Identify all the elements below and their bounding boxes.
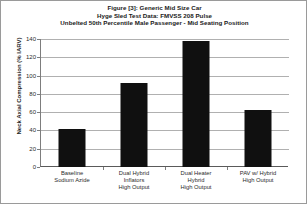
y-tick-label: 120 bbox=[10, 54, 36, 60]
y-tick-label: 0 bbox=[10, 164, 36, 170]
x-axis-category-line: High Output bbox=[165, 184, 227, 191]
y-tick-label: 60 bbox=[10, 109, 36, 115]
y-tick-label: 40 bbox=[10, 127, 36, 133]
x-axis-category-label: Dual HeaterHybridHigh Output bbox=[165, 170, 227, 192]
y-tick-label: 100 bbox=[10, 73, 36, 79]
x-axis-category-label: PAV w/ HybridHigh Output bbox=[227, 170, 289, 184]
x-axis-category-line: High Output bbox=[103, 184, 165, 191]
chart-title-line-1: Figure [3]: Generic Mid Size Car bbox=[1, 4, 307, 12]
x-axis-category-label: Dual HybridInflatorsHigh Output bbox=[103, 170, 165, 192]
chart-figure: Figure [3]: Generic Mid Size Car Hyge Sl… bbox=[0, 0, 307, 204]
y-tick-label: 20 bbox=[10, 146, 36, 152]
y-tick-mark bbox=[37, 167, 40, 168]
x-axis-category-line: Baseline bbox=[41, 170, 103, 177]
bar[interactable] bbox=[59, 129, 86, 167]
x-axis-category-line: Hybrid bbox=[165, 177, 227, 184]
y-axis-label: Neck Axial Compression (% IARV) bbox=[16, 21, 22, 151]
bar-slot bbox=[165, 39, 227, 167]
x-tick-mark bbox=[103, 167, 104, 170]
chart-title-line-2: Hyge Sled Test Data: FMVSS 208 Pulse bbox=[1, 12, 307, 20]
x-axis-category-line: Dual Heater bbox=[165, 170, 227, 177]
x-axis-category-line: Sodium Azide bbox=[41, 177, 103, 184]
bar[interactable] bbox=[183, 41, 210, 167]
bar-slot bbox=[227, 39, 289, 167]
x-axis-category-line: Inflators bbox=[103, 177, 165, 184]
x-axis-category-label: BaselineSodium Azide bbox=[41, 170, 103, 184]
x-axis-category-line: PAV w/ Hybrid bbox=[227, 170, 289, 177]
bar-series bbox=[41, 39, 288, 167]
y-tick-label: 140 bbox=[10, 36, 36, 42]
chart-title-block: Figure [3]: Generic Mid Size Car Hyge Sl… bbox=[1, 4, 307, 27]
bar[interactable] bbox=[121, 83, 148, 167]
x-tick-mark bbox=[227, 167, 228, 170]
y-tick-label: 80 bbox=[10, 91, 36, 97]
x-axis-labels: BaselineSodium AzideDual HybridInflators… bbox=[41, 170, 288, 203]
bar-slot bbox=[41, 39, 103, 167]
x-axis-category-line: High Output bbox=[227, 177, 289, 184]
bar-slot bbox=[103, 39, 165, 167]
chart-title-line-3: Unbelted 50th Percentile Male Passenger … bbox=[1, 19, 307, 27]
bar[interactable] bbox=[245, 110, 272, 167]
x-axis-category-line: Dual Hybrid bbox=[103, 170, 165, 177]
x-tick-mark bbox=[165, 167, 166, 170]
